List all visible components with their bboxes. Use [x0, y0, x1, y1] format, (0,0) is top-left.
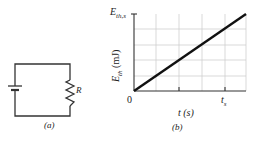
- caption-b: (b): [172, 122, 183, 132]
- x-axis-label: t (s): [178, 107, 194, 118]
- x-origin-label: 0: [127, 94, 132, 105]
- x-tick-label-ts: ts: [221, 94, 227, 108]
- energy-time-chart: [0, 0, 254, 143]
- y-top-label: Eth,s: [110, 6, 126, 20]
- y-axis-label: Eth (mJ): [110, 50, 124, 82]
